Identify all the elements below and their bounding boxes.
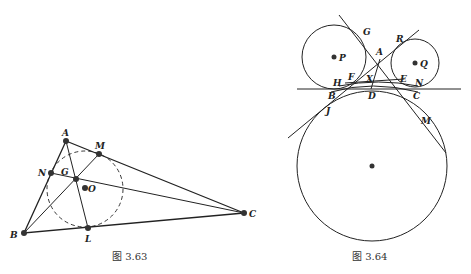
label-n: N: [414, 78, 424, 88]
figures-canvas: A M N G O B L C 图 3.63 P Q G A R F X E N…: [0, 0, 471, 274]
figure-3-63-points: [21, 138, 247, 236]
label-a: A: [375, 47, 383, 57]
point-b: [21, 230, 27, 236]
point-a: [63, 138, 69, 144]
figure-3-64: [288, 15, 461, 241]
label-x: X: [365, 74, 374, 84]
figure-3-64-points: [332, 55, 418, 169]
label-b: B: [327, 91, 336, 101]
caption-fig-3-63: 图 3.63: [112, 251, 147, 262]
point-big-center: [370, 164, 375, 169]
label-c: C: [413, 91, 421, 101]
line-g-m: [339, 15, 446, 153]
point-p: [332, 55, 337, 60]
label-l: L: [84, 234, 91, 244]
label-d: D: [367, 91, 376, 101]
label-c: C: [249, 209, 257, 219]
figure-3-63: [24, 141, 244, 233]
label-e: E: [399, 74, 407, 84]
figure-3-64-labels: P Q G A R F X E N H B D C J M: [324, 27, 432, 126]
point-q: [413, 61, 418, 66]
point-c: [241, 210, 247, 216]
label-a: A: [61, 128, 69, 138]
point-g: [73, 176, 79, 182]
label-g: G: [363, 27, 371, 37]
median-al: [66, 141, 88, 228]
label-m: M: [420, 116, 432, 126]
label-h: H: [332, 78, 342, 88]
point-n: [48, 170, 54, 176]
label-m: M: [94, 141, 106, 151]
label-g: G: [61, 167, 69, 177]
figure-3-63-labels: A M N G O B L C: [9, 128, 257, 244]
label-j: J: [324, 106, 331, 116]
label-r: R: [395, 34, 404, 44]
triangle-abc: [24, 141, 244, 233]
label-f: F: [347, 72, 355, 82]
label-n: N: [37, 168, 47, 178]
label-b: B: [9, 230, 18, 240]
label-p: P: [338, 53, 346, 63]
point-l: [85, 225, 91, 231]
label-q: Q: [420, 59, 428, 69]
median-cn: [51, 173, 244, 213]
caption-fig-3-64: 图 3.64: [352, 251, 387, 262]
label-o: O: [88, 184, 96, 194]
point-m: [96, 151, 102, 157]
